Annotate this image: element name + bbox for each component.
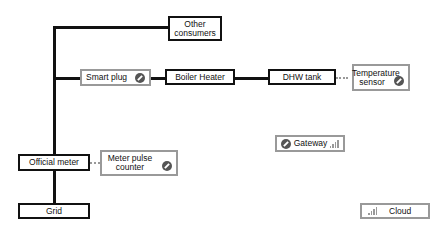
zwave-device-icon (394, 76, 404, 86)
node-label: Cloud (389, 207, 411, 216)
node-other-consumers: Other consumers (168, 16, 222, 41)
node-smart-plug: Smart plug (80, 69, 151, 86)
line-to-other-consumers (53, 26, 168, 29)
node-label: Boiler Heater (175, 73, 225, 82)
signal-strength-icon (330, 140, 339, 148)
node-boiler-heater: Boiler Heater (165, 69, 235, 85)
node-grid: Grid (18, 203, 90, 219)
line-to-smart-plug (53, 77, 80, 80)
node-gateway: Gateway (275, 135, 345, 152)
node-label: Smart plug (86, 73, 127, 82)
zwave-device-icon (162, 161, 172, 171)
node-label: Meter pulse counter (104, 154, 156, 172)
node-label: Temperature sensor (352, 69, 392, 87)
node-dhw-tank: DHW tank (268, 69, 336, 85)
link-meter-to-counter (90, 162, 100, 164)
node-cloud: Cloud (360, 203, 430, 219)
node-label: Gateway (294, 139, 328, 148)
line-plug-to-boiler (150, 77, 165, 80)
signal-strength-icon (368, 207, 377, 215)
node-label: Other consumers (170, 20, 220, 38)
node-label: Official meter (29, 158, 79, 167)
node-label: Grid (46, 207, 62, 216)
main-trunk-line (53, 26, 56, 206)
node-meter-pulse-counter: Meter pulse counter (100, 150, 178, 176)
node-official-meter: Official meter (18, 154, 90, 171)
node-label: DHW tank (283, 73, 322, 82)
zwave-device-icon (135, 73, 145, 83)
node-temperature-sensor: Temperature sensor (352, 64, 410, 91)
line-boiler-to-dhw (234, 77, 268, 80)
link-dhw-to-sensor (336, 77, 348, 79)
zwave-device-icon (281, 139, 291, 149)
